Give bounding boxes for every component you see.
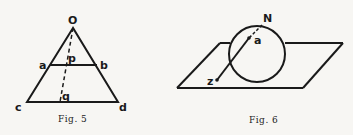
- label-a6: a: [254, 34, 261, 47]
- label-b: b: [100, 59, 108, 72]
- line-az: [217, 38, 249, 80]
- figure-5: O a b p q c d Fig. 5: [15, 14, 127, 124]
- label-n: N: [263, 12, 272, 25]
- plane-right-edge: [303, 43, 343, 88]
- plane-left-edge: [177, 43, 220, 88]
- label-o: O: [68, 14, 77, 27]
- label-z: z: [207, 75, 213, 88]
- caption-fig6: Fig. 6: [249, 115, 278, 125]
- label-d: d: [119, 101, 127, 114]
- label-p: p: [68, 52, 76, 65]
- figures-canvas: O a b p q c d Fig. 5 N a z Fig. 6: [0, 0, 353, 135]
- caption-fig5: Fig. 5: [58, 114, 87, 124]
- point-a: [247, 36, 251, 40]
- label-q: q: [62, 90, 70, 103]
- label-a: a: [39, 59, 46, 72]
- figure-6: N a z Fig. 6: [177, 12, 343, 125]
- label-c: c: [15, 101, 22, 114]
- point-z: [215, 78, 219, 82]
